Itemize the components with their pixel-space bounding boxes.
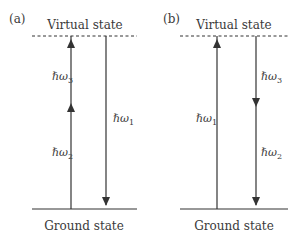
panel-a-omega1-arrowhead-icon (102, 197, 110, 206)
panel-a-omega3-arrowhead-icon (67, 39, 75, 48)
panel-b-ground-state-label: Ground state (194, 219, 274, 233)
panel-a-omega3-label: ℏω3 (52, 70, 73, 85)
panel-a-omega2-label: ℏω2 (52, 146, 73, 161)
panel-a-label: (a) (9, 12, 26, 26)
panel-b-virtual-state-label: Virtual state (195, 18, 271, 32)
panel-b-omega1-arrowhead-icon (213, 39, 221, 48)
panel-b-label: (b) (163, 12, 180, 26)
energy-level-diagram: (a) Virtual state Ground state ℏω3 ℏω2 ℏ… (0, 0, 302, 241)
panel-a-omega2-arrowhead-icon (67, 103, 75, 112)
panel-b-omega3-label: ℏω3 (261, 70, 282, 85)
panel-a-omega1-label: ℏω1 (113, 112, 134, 127)
panel-b-omega1-label: ℏω1 (196, 112, 217, 127)
panel-b-omega2-label: ℏω2 (261, 146, 282, 161)
panel-a: (a) Virtual state Ground state ℏω3 ℏω2 ℏ… (9, 12, 137, 233)
panel-b: (b) Virtual state Ground state ℏω1 ℏω3 ℏ… (163, 12, 288, 233)
panel-a-ground-state-label: Ground state (44, 219, 124, 233)
panel-b-omega2-arrowhead-icon (252, 197, 260, 206)
panel-a-virtual-state-label: Virtual state (46, 18, 122, 32)
panel-b-omega3-arrowhead-icon (252, 98, 260, 107)
